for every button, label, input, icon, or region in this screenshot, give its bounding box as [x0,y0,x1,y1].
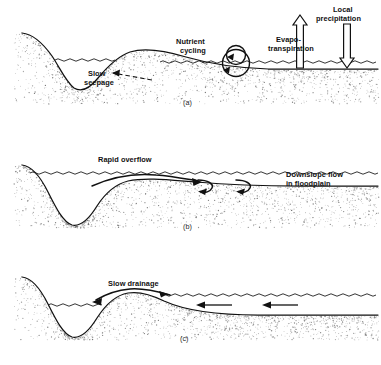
nutrient-cycling-label-line2: cycling [180,46,206,55]
precipitation-label-line2: precipitation [316,14,361,23]
panel-a: Slow seepage Nutrient cycling Evapo- tra… [14,5,379,107]
downslope-flow-label-line2: in floodplain [286,179,331,188]
eddy-arrow-1-head [198,189,207,196]
eddy-arrow-2-head [236,189,245,196]
slow-seepage-label-line2: seepage [84,78,114,87]
precipitation-arrow [340,24,354,68]
rapid-overflow-arrow-head [192,178,202,186]
channel-profile-c [22,277,378,337]
slow-seepage-label-line1: Slow [88,69,106,78]
water-surface-c-channel [48,304,102,306]
panel-b: Rapid overflow Downslope flow in floodpl… [14,155,380,231]
water-surface-a-channel [55,59,115,61]
nutrient-cycling-label-line1: Nutrient [176,37,205,46]
precipitation-label-line1: Local [333,5,353,14]
caption-a: (a) [183,98,192,107]
caption-b: (b) [183,222,192,231]
diagram-canvas: Slow seepage Nutrient cycling Evapo- tra… [0,0,381,365]
downslope-flow-label-line1: Downslope flow [286,170,343,179]
slow-drainage-arrow-head-right [159,291,168,298]
caption-c: (c) [180,334,188,343]
hydrology-figure: Slow seepage Nutrient cycling Evapo- tra… [0,0,381,365]
panel-c-sediment [14,278,379,341]
panel-c: Slow drainage (c) [14,277,379,343]
nutrient-loop-inner [227,46,246,65]
evapotranspiration-label-line1: Evapo- [276,35,301,44]
stipple-c [14,278,379,341]
rapid-overflow-label: Rapid overflow [98,155,152,164]
slow-drainage-label: Slow drainage [108,279,159,288]
return-arrow-2-head [262,302,271,309]
water-surface-c-right [160,294,376,296]
return-arrow-1-head [196,302,205,309]
evapotranspiration-label-line2: transpiration [268,44,314,53]
